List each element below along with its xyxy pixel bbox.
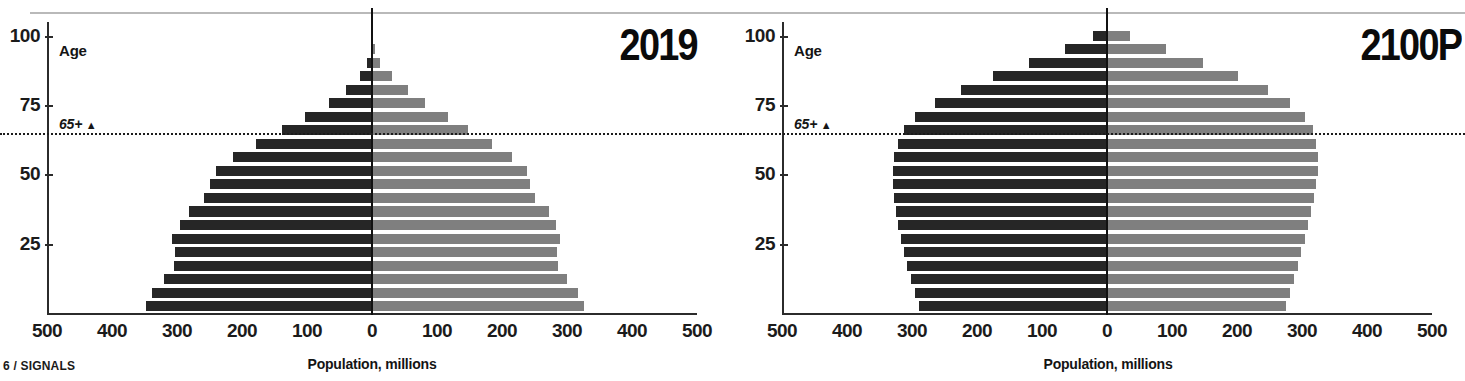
- plot-area-2100p: Age 25507510065+ ▲: [782, 22, 1432, 315]
- bar-male: [346, 85, 372, 95]
- y-axis-tick: [780, 105, 788, 107]
- bar-male: [164, 274, 372, 284]
- x-axis-tick-label: 300: [162, 320, 192, 342]
- y-axis-tick: [780, 36, 788, 38]
- bar-male: [898, 139, 1107, 149]
- bar-male: [904, 247, 1107, 257]
- bar-male: [189, 206, 372, 216]
- x-axis-tick-label: 100: [292, 320, 322, 342]
- triangle-up-icon: ▲: [821, 119, 832, 131]
- x-axis-tick-label: 100: [1157, 320, 1187, 342]
- bar-female: [1107, 234, 1305, 244]
- x-axis-tick-label: 500: [1417, 320, 1447, 342]
- x-axis-tick-label: 500: [767, 320, 797, 342]
- reference-line-65plus: [740, 133, 1465, 135]
- y-axis-tick: [45, 36, 53, 38]
- bar-male: [901, 234, 1107, 244]
- y-axis-tick: [780, 174, 788, 176]
- bar-male: [146, 301, 372, 311]
- bar-male: [961, 85, 1107, 95]
- x-axis-tick-label: 300: [1287, 320, 1317, 342]
- bar-male: [305, 112, 372, 122]
- bar-male: [329, 98, 372, 108]
- x-axis-tick-label: 500: [32, 320, 62, 342]
- bar-female: [1107, 58, 1203, 68]
- bar-female: [372, 220, 556, 230]
- reference-line-label: 65+ ▲: [59, 116, 97, 132]
- y-axis-tick: [780, 244, 788, 246]
- bar-female: [1107, 301, 1286, 311]
- y-axis-tick-label: 100: [745, 25, 775, 47]
- bar-female: [372, 193, 535, 203]
- bar-female: [1107, 179, 1316, 189]
- bar-male: [180, 220, 372, 230]
- bar-female: [1107, 139, 1316, 149]
- bar-male: [919, 301, 1108, 311]
- y-axis-tick-label: 50: [20, 163, 40, 185]
- panel-2100p: 2100P Age 25507510065+ ▲ 500400300200100…: [740, 0, 1465, 381]
- reference-line-label: 65+ ▲: [794, 116, 832, 132]
- x-axis-tick-label: 0: [1102, 320, 1112, 342]
- x-axis-labels-2100p: 5004003002001000100200300400500: [782, 318, 1432, 342]
- bar-male: [935, 98, 1107, 108]
- reference-line-65plus: [0, 133, 741, 135]
- bar-female: [372, 112, 448, 122]
- y-axis-tick-label: 25: [755, 233, 775, 255]
- x-axis-tick-label: 300: [897, 320, 927, 342]
- x-axis-tick-label: 200: [227, 320, 257, 342]
- bar-female: [372, 288, 578, 298]
- bar-male: [152, 288, 372, 298]
- bar-female: [372, 274, 567, 284]
- x-axis-tick-label: 400: [832, 320, 862, 342]
- bar-female: [372, 85, 408, 95]
- zero-spine-2019: [371, 8, 373, 315]
- bar-male: [893, 166, 1108, 176]
- population-pyramid-figure: 2019 Age 25507510065+ ▲ 5004003002001000…: [0, 0, 1465, 381]
- y-axis-tick-label: 50: [755, 163, 775, 185]
- reference-label-text: 65+: [794, 116, 817, 132]
- bar-female: [1107, 193, 1314, 203]
- y-axis-tick-label: 75: [20, 94, 40, 116]
- bar-female: [372, 98, 425, 108]
- x-axis-title-2100p: Population, millions: [1043, 356, 1172, 372]
- y-axis-tick: [45, 174, 53, 176]
- bar-female: [1107, 261, 1298, 271]
- x-axis-title-2019: Population, millions: [307, 356, 436, 372]
- y-axis-tick-label: 100: [10, 25, 40, 47]
- bar-female: [372, 139, 492, 149]
- bar-male: [172, 234, 372, 244]
- bar-female: [372, 179, 530, 189]
- bar-female: [1107, 247, 1301, 257]
- zero-spine-2100p: [1106, 8, 1108, 315]
- x-axis-tick-label: 100: [1027, 320, 1057, 342]
- bar-male: [907, 261, 1107, 271]
- bar-male: [993, 71, 1107, 81]
- bar-male: [204, 193, 372, 203]
- bar-female: [372, 234, 560, 244]
- x-axis-tick-label: 400: [97, 320, 127, 342]
- bar-male: [233, 152, 372, 162]
- bar-female: [372, 152, 512, 162]
- y-axis-tick-label: 75: [755, 94, 775, 116]
- bar-male: [911, 274, 1107, 284]
- x-axis-labels-2019: 5004003002001000100200300400500: [47, 318, 697, 342]
- bar-female: [1107, 112, 1305, 122]
- x-axis-tick-label: 200: [962, 320, 992, 342]
- bar-female: [372, 166, 527, 176]
- x-axis-tick-label: 200: [1222, 320, 1252, 342]
- bar-female: [1107, 98, 1290, 108]
- bar-male: [915, 288, 1107, 298]
- bar-male: [210, 179, 372, 189]
- x-axis-tick-label: 0: [367, 320, 377, 342]
- bar-female: [1107, 31, 1130, 41]
- bar-female: [372, 58, 380, 68]
- bar-male: [1029, 58, 1107, 68]
- bar-female: [1107, 85, 1268, 95]
- bar-male: [216, 166, 372, 176]
- bar-male: [1065, 44, 1107, 54]
- x-axis-tick-label: 500: [682, 320, 712, 342]
- x-axis-tick-label: 100: [422, 320, 452, 342]
- bar-female: [1107, 44, 1166, 54]
- bar-female: [1107, 166, 1318, 176]
- reference-label-text: 65+: [59, 116, 82, 132]
